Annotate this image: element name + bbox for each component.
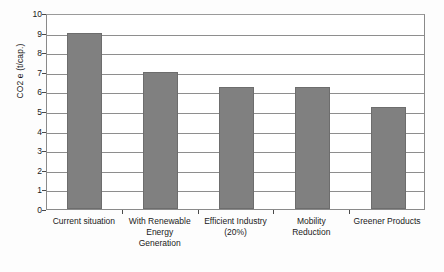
bar-series [47,15,424,209]
x-axis-category-label: Efficient Industry(20%) [198,216,274,238]
x-axis-category-label: With RenewableEnergyGeneration [122,216,198,249]
x-axis-category-label-line: Reduction [273,227,349,238]
y-axis-tick-label: 9 [24,29,42,38]
y-axis-tick-mark [42,190,46,191]
y-axis-tick-label: 1 [24,186,42,195]
x-axis-category-label-line: Greener Products [349,216,425,227]
y-axis-tick-mark [42,171,46,172]
x-axis-category-label: Current situation [46,216,122,227]
y-axis-tick-label: 8 [24,49,42,58]
y-axis-tick-label: 10 [24,10,42,19]
x-axis-category-label: Greener Products [349,216,425,227]
y-axis-tick-labels: 012345678910 [24,14,42,210]
plot-area [46,14,425,210]
y-axis-tick-label: 2 [24,167,42,176]
x-axis-tick-mark [198,210,199,214]
x-axis-category-labels: Current situationWith RenewableEnergyGen… [46,216,425,268]
y-axis-tick-mark [42,210,46,211]
y-axis-tick-mark [42,92,46,93]
y-axis-tick-mark [42,132,46,133]
y-axis-tick-label: 5 [24,108,42,117]
y-axis-tick-mark [42,73,46,74]
y-axis-tick-label: 7 [24,69,42,78]
x-axis-category-label-line: Generation [122,238,198,249]
bar [371,107,406,209]
x-axis-category-label-line: With Renewable [122,216,198,227]
y-axis-tick-mark [42,151,46,152]
y-axis-tick-mark [42,34,46,35]
x-axis-category-label-line: (20%) [198,227,274,238]
x-axis-tick-mark [349,210,350,214]
bar-chart-figure: CO2 e (t/cap.) 012345678910 Current situ… [0,0,444,272]
y-axis-tick-label: 0 [24,206,42,215]
x-axis-tick-mark [273,210,274,214]
y-axis-tick-mark [42,14,46,15]
y-axis-tick-label: 4 [24,127,42,136]
x-axis-category-label-line: Energy [122,227,198,238]
bar [219,87,254,209]
x-axis-category-label-line: Efficient Industry [198,216,274,227]
x-axis-category-label: MobilityReduction [273,216,349,238]
x-axis-tick-mark [122,210,123,214]
y-axis-tick-mark [42,53,46,54]
bar [295,87,330,209]
x-axis-category-label-line: Mobility [273,216,349,227]
y-axis-tick-label: 3 [24,147,42,156]
bar [67,33,102,209]
y-axis-tick-mark [42,112,46,113]
bar [143,72,178,209]
y-axis-tick-label: 6 [24,88,42,97]
x-axis-category-label-line: Current situation [46,216,122,227]
